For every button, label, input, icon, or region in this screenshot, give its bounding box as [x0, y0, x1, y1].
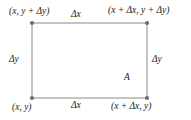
interior-area-label: A [124, 73, 130, 83]
corner-label-bottom-right: (x + Δx, y) [111, 102, 151, 112]
edge-label-bottom-delta-x: Δx [71, 101, 81, 111]
rectangle-area-diagram: (x, y + Δy) (x + Δx, y + Δy) (x, y) (x +… [0, 0, 191, 120]
edge-label-left-delta-y: Δy [9, 55, 19, 65]
edge-label-right-delta-y: Δy [152, 55, 162, 65]
vertex-dot-bottom-left [30, 96, 34, 100]
vertex-dot-top-right [145, 21, 149, 25]
corner-label-bottom-left: (x, y) [12, 103, 32, 113]
vertex-dot-bottom-right [145, 96, 149, 100]
corner-label-top-right: (x + Δx, y + Δy) [108, 6, 169, 16]
vertex-dot-top-left [30, 21, 34, 25]
corner-label-top-left: (x, y + Δy) [9, 7, 49, 17]
edge-label-top-delta-x: Δx [71, 10, 81, 20]
